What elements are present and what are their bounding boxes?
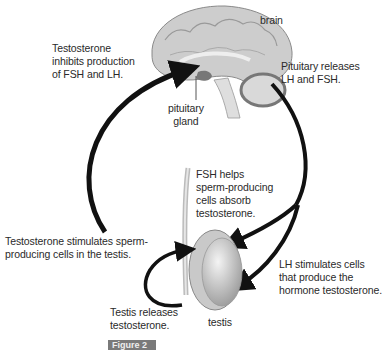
label-pituitary-gland: pituitary gland [168, 102, 204, 128]
label-testis: testis [208, 316, 232, 329]
loop-arrow [145, 250, 186, 306]
label-testis-releases: Testis releases testosterone. [110, 306, 178, 332]
label-testosterone-stimulates: Testosterone stimulates sperm- producing… [5, 235, 148, 261]
label-pituitary-releases: Pituitary releases LH and FSH. [281, 60, 360, 86]
label-brain: brain [260, 14, 283, 27]
label-testosterone-inhibits: Testosterone inhibits production of FSH … [52, 42, 135, 81]
label-lh-stimulates: LH stimulates cells that produce the hor… [279, 258, 382, 297]
figure-tag: Figure 2 [108, 340, 156, 350]
feedback-arrow [89, 70, 186, 232]
label-fsh-helps: FSH helps sperm-producing cells absorb t… [196, 168, 273, 220]
